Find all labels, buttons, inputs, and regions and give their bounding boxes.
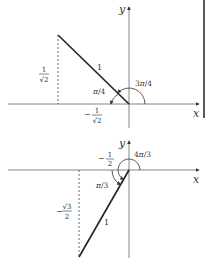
reference-angle-arc bbox=[111, 94, 119, 104]
y-coordinate-label: 1 √2 bbox=[39, 66, 49, 84]
reference-angle-label: π/3 bbox=[95, 181, 108, 190]
y-coordinate-label: − √3 2 bbox=[56, 203, 72, 221]
hypotenuse-label: 1 bbox=[104, 218, 109, 227]
x-axis-label: x bbox=[193, 107, 200, 120]
diagram-bottom: x y 1 4π/3 π/3 − 1 2 − √3 2 bbox=[8, 137, 200, 258]
svg-text:−: − bbox=[84, 110, 91, 119]
svg-text:1: 1 bbox=[95, 107, 99, 115]
angle-label: 4π/3 bbox=[134, 150, 151, 159]
hypotenuse-label: 1 bbox=[97, 63, 102, 72]
x-axis-label: x bbox=[193, 173, 200, 186]
reference-angle-arc bbox=[112, 170, 121, 185]
svg-text:√3: √3 bbox=[63, 203, 72, 211]
y-axis-label: y bbox=[118, 137, 126, 150]
svg-text:1: 1 bbox=[42, 66, 46, 74]
x-coordinate-label: − 1 2 bbox=[98, 151, 114, 168]
unit-circle-figure: x y 1 3π/4 π/4 1 √2 − 1 √2 x y bbox=[0, 0, 205, 258]
angle-label: 3π/4 bbox=[135, 79, 152, 88]
diagram-top: x y 1 3π/4 π/4 1 √2 − 1 √2 bbox=[8, 3, 200, 128]
svg-text:2: 2 bbox=[108, 160, 112, 168]
reference-angle-label: π/4 bbox=[92, 87, 105, 96]
svg-text:1: 1 bbox=[108, 151, 112, 159]
y-axis-label: y bbox=[118, 3, 126, 16]
svg-text:√2: √2 bbox=[93, 117, 102, 125]
x-coordinate-label: − 1 √2 bbox=[84, 107, 102, 125]
svg-text:√2: √2 bbox=[40, 76, 49, 84]
svg-text:−: − bbox=[98, 154, 105, 163]
svg-text:2: 2 bbox=[65, 213, 69, 221]
